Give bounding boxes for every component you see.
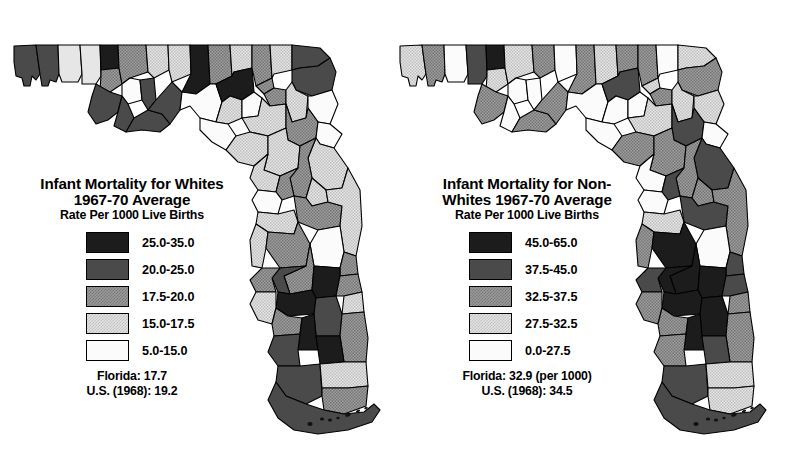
legend-swatch-class1 [469, 232, 512, 253]
legend-item[interactable]: 15.0-17.5 [18, 312, 246, 335]
legend-swatch-class2 [469, 259, 512, 280]
legend-swatch-class4 [469, 313, 512, 334]
legend-item[interactable]: 0.0-27.5 [411, 339, 643, 362]
county-indianriver [726, 252, 744, 276]
county-palmbeach [726, 312, 754, 362]
legend-swatch-class3 [86, 286, 129, 307]
legend-label: 5.0-15.0 [142, 344, 187, 358]
county-palmbeach [340, 312, 368, 362]
legend-label: 32.5-37.5 [525, 290, 577, 304]
map-panel-whites: Infant Mortality for Whites 1967-70 Aver… [0, 0, 400, 452]
legend-class-list: 25.0-35.0 20.0-25.0 17.5-20.0 15.0-17.5 … [18, 231, 246, 362]
county-baker [656, 45, 678, 78]
legend-item[interactable]: 25.0-35.0 [18, 231, 246, 254]
county-santarosa [36, 45, 59, 86]
legend-item[interactable]: 20.0-25.0 [18, 258, 246, 281]
legend-label: 20.0-25.0 [142, 263, 194, 277]
county-broward [706, 362, 754, 388]
legend-item[interactable]: 17.5-20.0 [18, 285, 246, 308]
legend-label: 15.0-17.5 [142, 317, 194, 331]
county-escambia [400, 45, 426, 86]
county-hernando [252, 190, 282, 214]
legend-title: Infant Mortality for Non- Whites 1967-70… [411, 176, 643, 207]
county-walton [466, 45, 487, 84]
footnote-state-rate: Florida: 32.9 (per 1000) [411, 369, 643, 384]
map-panel-non-whites: Infant Mortality for Non- Whites 1967-70… [386, 0, 786, 452]
county-holmes [486, 45, 505, 70]
legend-item[interactable]: 27.5-32.5 [411, 312, 643, 335]
county-holmes [100, 45, 119, 70]
legend-label: 17.5-20.0 [142, 290, 194, 304]
legend-swatch-class3 [469, 286, 512, 307]
county-highlands [700, 296, 728, 336]
footnote-us-rate: U.S. (1968): 19.2 [18, 384, 246, 399]
infant-mortality-florida-map-figure: { "figure": { "title": "Infant Mortality… [0, 0, 801, 452]
county-miamidade [322, 386, 368, 414]
county-baker [270, 45, 292, 78]
legend-non-whites: Infant Mortality for Non- Whites 1967-70… [411, 176, 643, 398]
legend-subtitle: Rate Per 1000 Live Births [18, 208, 246, 222]
legend-swatch-class2 [86, 259, 129, 280]
legend-label: 0.0-27.5 [525, 344, 570, 358]
county-martin [728, 292, 750, 314]
legend-label: 27.5-32.5 [525, 317, 577, 331]
legend-swatch-class4 [86, 313, 129, 334]
county-leon [554, 45, 577, 82]
legend-footnotes: Florida: 17.7 U.S. (1968): 19.2 [18, 369, 246, 398]
county-lee [268, 334, 300, 366]
footnote-state-rate: Florida: 17.7 [18, 369, 246, 384]
county-highlands [314, 296, 342, 336]
footnote-us-rate: U.S. (1968): 34.5 [411, 384, 643, 399]
county-santarosa [422, 45, 445, 86]
county-indianriver [340, 252, 358, 276]
county-lee [654, 334, 686, 366]
county-leon [168, 45, 191, 82]
legend-item[interactable]: 45.0-65.0 [411, 231, 643, 254]
county-miamidade [708, 386, 754, 414]
county-pinellas [250, 224, 268, 268]
county-sarasota [250, 292, 276, 324]
county-martin [342, 292, 364, 314]
legend-label: 25.0-35.0 [142, 236, 194, 250]
county-hendry [316, 336, 344, 364]
legend-swatch-class5 [469, 340, 512, 361]
legend-item[interactable]: 5.0-15.0 [18, 339, 246, 362]
county-okeechobee [312, 266, 340, 298]
legend-item[interactable]: 32.5-37.5 [411, 285, 643, 308]
county-escambia [14, 45, 40, 86]
county-gadsden [146, 45, 169, 78]
county-gadsden [532, 45, 555, 78]
county-osceola [310, 226, 344, 268]
legend-swatch-class1 [86, 232, 129, 253]
legend-swatch-class5 [86, 340, 129, 361]
legend-subtitle: Rate Per 1000 Live Births [411, 208, 643, 222]
legend-whites: Infant Mortality for Whites 1967-70 Aver… [18, 176, 246, 398]
county-okaloosa [444, 45, 468, 82]
legend-label: 45.0-65.0 [525, 236, 577, 250]
county-osceola [696, 226, 730, 268]
county-okaloosa [58, 45, 82, 82]
county-okeechobee [698, 266, 726, 298]
legend-class-list: 45.0-65.0 37.5-45.0 32.5-37.5 27.5-32.5 … [411, 231, 643, 362]
legend-label: 37.5-45.0 [525, 263, 577, 277]
legend-item[interactable]: 37.5-45.0 [411, 258, 643, 281]
legend-footnotes: Florida: 32.9 (per 1000) U.S. (1968): 34… [411, 369, 643, 398]
county-walton [80, 45, 101, 84]
legend-title: Infant Mortality for Whites 1967-70 Aver… [18, 176, 246, 207]
county-broward [320, 362, 368, 388]
county-hendry [702, 336, 730, 364]
